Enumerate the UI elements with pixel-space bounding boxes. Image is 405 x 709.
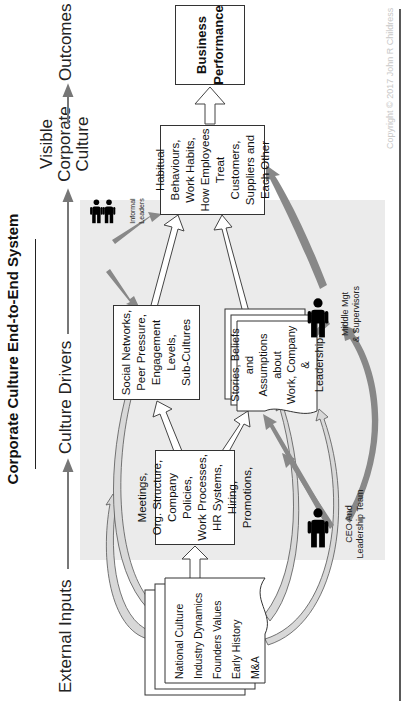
informal-leader-icon — [90, 199, 115, 223]
informal-leaders-label: Informal Leaders — [128, 191, 146, 231]
diagram-canvas: Corporate Culture End-to-End System Copy… — [0, 0, 405, 709]
middle-mgt-person-icon — [308, 298, 329, 337]
people-icons — [0, 0, 405, 709]
middle-mgt-label: Middle Mgt & Supervisors — [340, 274, 362, 354]
ceo-label: CEO And Leadership Team — [344, 479, 366, 569]
ceo-person-icon — [308, 508, 329, 547]
